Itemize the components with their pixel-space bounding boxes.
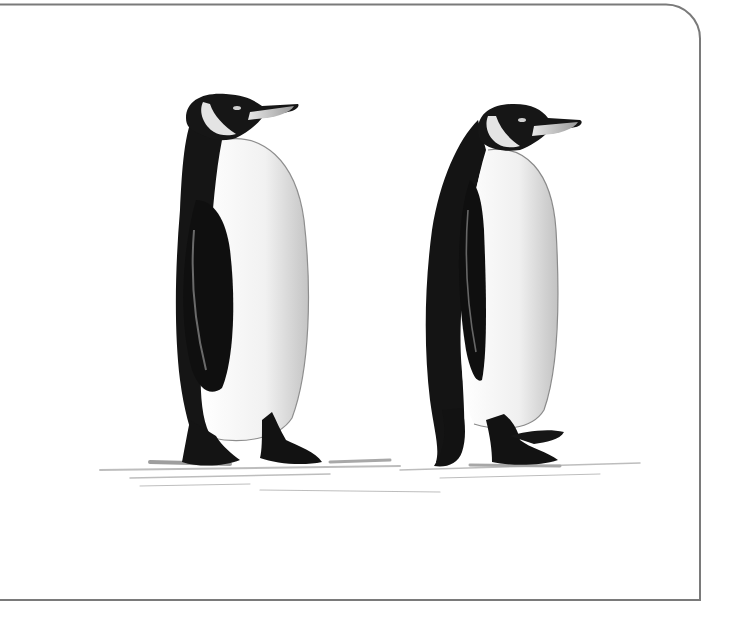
left-penguin (176, 94, 322, 466)
ground-shadow (100, 460, 640, 492)
penguins-illustration (0, 0, 733, 617)
right-penguin (426, 104, 582, 466)
